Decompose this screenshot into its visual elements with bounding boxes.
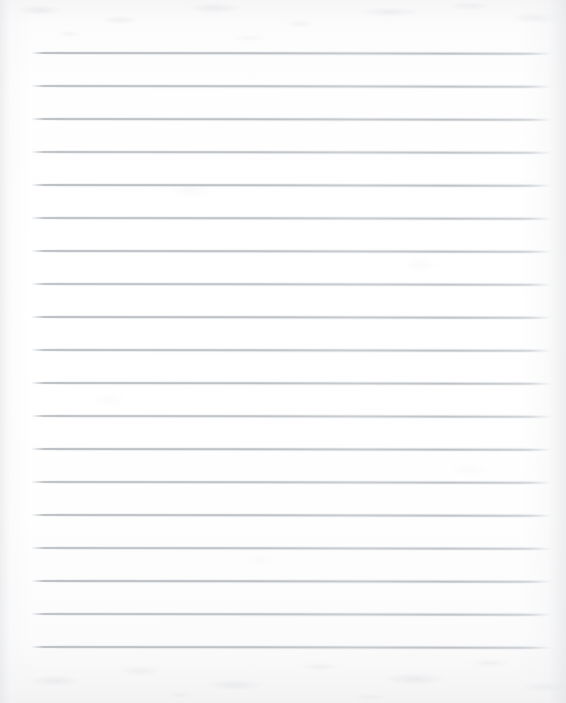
paper-surface	[0, 0, 566, 703]
scanned-page	[0, 0, 566, 703]
